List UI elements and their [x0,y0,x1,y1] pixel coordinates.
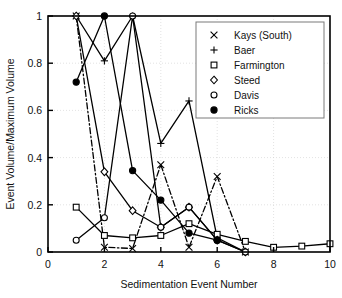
x-tick-label: 6 [214,258,220,270]
y-axis-title: Event Volume/Maximum Volume [4,58,16,209]
sedimentation-event-line-chart: 024681000.20.40.60.81Sedimentation Event… [0,0,342,298]
marker-circle-filled [158,197,164,203]
marker-circle-open [158,224,164,230]
marker-square-open [299,243,305,249]
marker-square-open [73,204,79,210]
marker-circle-filled [214,237,220,243]
marker-circle-open [73,237,79,243]
legend: Kays (South)BaerFarmingtonSteedDavisRick… [196,22,324,118]
marker-circle-filled [73,79,79,85]
marker-square-open [102,233,108,239]
legend-label: Steed [234,75,260,86]
y-tick-label: 0.8 [27,57,42,69]
legend-label: Ricks [234,105,258,116]
marker-square-open [158,233,164,239]
x-tick-label: 0 [45,258,51,270]
marker-square-open [243,238,249,244]
y-tick-label: 0.2 [27,199,42,211]
x-axis-title: Sedimentation Event Number [120,278,258,290]
legend-label: Davis [234,90,259,101]
y-tick-label: 1 [36,10,42,22]
marker-circle-filled [186,230,192,236]
marker-circle-open [211,92,217,98]
legend-label: Farmington [234,60,285,71]
marker-square-open [211,62,217,68]
chart-figure: 024681000.20.40.60.81Sedimentation Event… [0,0,342,298]
y-tick-label: 0.4 [27,152,42,164]
y-tick-label: 0 [36,246,42,258]
x-tick-label: 8 [271,258,277,270]
series-line [76,207,330,247]
x-tick-label: 2 [101,258,107,270]
legend-label: Kays (South) [234,30,292,41]
marker-circle-filled [130,167,136,173]
marker-circle-open [101,215,107,221]
marker-square-open [130,235,136,241]
marker-square-open [186,221,192,227]
marker-circle-filled [211,107,217,113]
x-tick-label: 10 [324,258,336,270]
x-tick-label: 4 [158,258,164,270]
y-tick-label: 0.6 [27,104,42,116]
legend-label: Baer [234,45,256,56]
marker-circle-open [186,204,192,210]
